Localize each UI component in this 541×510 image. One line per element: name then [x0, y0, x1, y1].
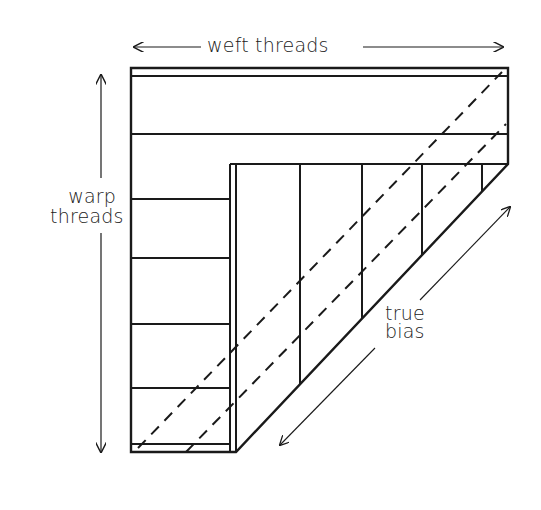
bias-label-line2: bias: [385, 322, 425, 340]
fabric-shape: [131, 68, 508, 452]
weft-threads-label: weft threads: [207, 35, 329, 55]
fabric-diagram: [0, 0, 541, 510]
warp-label-line1: warp: [50, 186, 116, 206]
bias-cut-lines: [138, 72, 506, 452]
warp-label-line2: threads: [50, 206, 116, 226]
warp-threads-label: warp threads: [50, 186, 116, 226]
true-bias-label: true bias: [385, 304, 425, 340]
